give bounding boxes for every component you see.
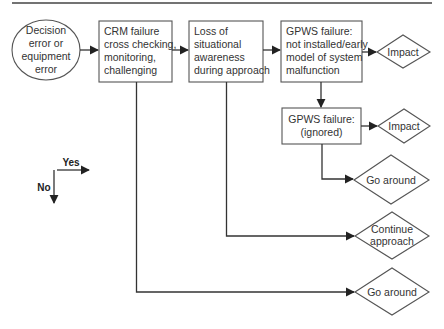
legend: Yes No xyxy=(37,157,89,203)
crm-line-2: monitoring, xyxy=(104,51,156,63)
continue-approach-outcome: Continue approach xyxy=(355,212,429,259)
crm-failure-box: CRM failure cross checking, monitoring, … xyxy=(99,21,176,82)
continue-line-0: Continue xyxy=(371,223,413,235)
gpws2-line-0: GPWS failure: xyxy=(288,113,355,125)
flowchart: Decision error or equipment error CRM fa… xyxy=(0,0,444,329)
gpws-ignored-box: GPWS failure: (ignored) xyxy=(282,108,361,144)
impact-outcome-1: Impact xyxy=(377,35,430,68)
start-node: Decision error or equipment error xyxy=(12,20,80,80)
gpws1-line-3: malfunction xyxy=(286,64,340,76)
connectors xyxy=(80,50,377,292)
impact2-label: Impact xyxy=(388,120,420,132)
continue-line-1: approach xyxy=(370,235,414,247)
go-around-outcome-2: Go around xyxy=(355,268,429,315)
start-line-0: Decision xyxy=(26,24,66,36)
legend-no-label: No xyxy=(37,182,50,193)
gpws-failure-box: GPWS failure: not installed/early model … xyxy=(281,21,368,82)
arrow-ignored-to-goaround xyxy=(322,144,353,179)
gpws1-line-2: model of system xyxy=(286,51,363,63)
impact1-label: Impact xyxy=(387,46,419,58)
goaround2-label: Go around xyxy=(367,286,417,298)
gpws2-line-1: (ignored) xyxy=(300,126,342,138)
gpws1-line-0: GPWS failure: xyxy=(286,25,353,37)
loss-line-1: situational xyxy=(194,38,241,50)
crm-line-3: challenging xyxy=(104,64,157,76)
crm-line-1: cross checking, xyxy=(104,38,176,50)
impact-outcome-2: Impact xyxy=(378,109,430,143)
gpws1-line-1: not installed/early xyxy=(286,38,368,50)
go-around-outcome-1: Go around xyxy=(354,155,429,204)
start-line-3: error xyxy=(35,63,58,75)
legend-yes-label: Yes xyxy=(62,157,80,168)
loss-line-0: Loss of xyxy=(194,25,228,37)
goaround1-label: Go around xyxy=(366,174,416,186)
loss-of-awareness-box: Loss of situational awareness during app… xyxy=(189,21,270,82)
start-line-2: equipment xyxy=(21,50,70,62)
loss-line-3: during approach xyxy=(194,64,270,76)
crm-line-0: CRM failure xyxy=(104,25,160,37)
arrow-loss-to-continue xyxy=(227,82,355,236)
start-line-1: error or xyxy=(29,37,64,49)
loss-line-2: awareness xyxy=(194,51,245,63)
